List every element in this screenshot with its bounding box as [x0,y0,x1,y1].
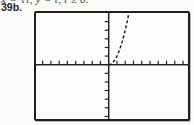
parametric-curve [109,13,129,65]
figure-page: x = √t, y = t, t ≥ 0. 39b. [0,0,194,125]
figure-label: 39b. [1,1,22,13]
calculator-graph [36,13,188,119]
equation-text: x = √t, y = t, t ≥ 0. [1,0,191,5]
calculator-screen [34,11,190,121]
